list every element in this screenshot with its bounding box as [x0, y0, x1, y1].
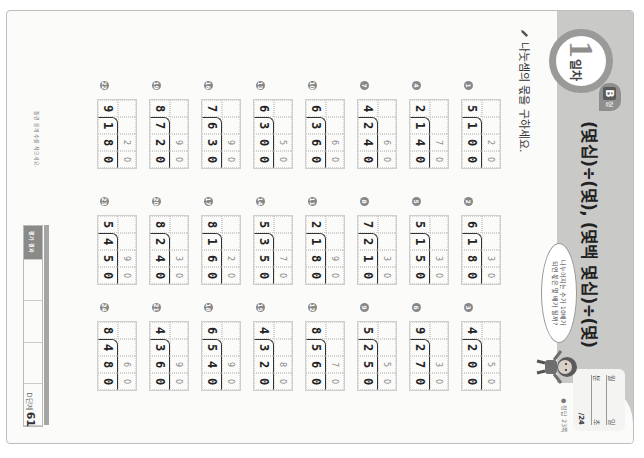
quotient-cell[interactable]: 5: [378, 356, 396, 373]
evaluation-cell[interactable]: [24, 343, 42, 385]
quotient-cell[interactable]: 6: [118, 356, 136, 373]
quotient-cell[interactable]: 6: [378, 134, 396, 151]
quotient-cell[interactable]: [482, 339, 500, 356]
quotient-cell[interactable]: 2: [222, 250, 240, 267]
quotient-cell[interactable]: 0: [274, 373, 292, 390]
quotient-cell[interactable]: 6: [326, 134, 344, 151]
quotient-cell[interactable]: 9: [118, 250, 136, 267]
quotient-cell[interactable]: [118, 322, 136, 339]
quotient-cell[interactable]: [222, 322, 240, 339]
quotient-cell[interactable]: [430, 117, 448, 134]
quotient-cell[interactable]: [482, 233, 500, 250]
quotient-cell[interactable]: [170, 117, 188, 134]
quotient-cell[interactable]: [430, 322, 448, 339]
quotient-cell[interactable]: [222, 216, 240, 233]
quotient-cell[interactable]: [170, 339, 188, 356]
quotient-cell[interactable]: [222, 233, 240, 250]
quotient-cell[interactable]: [274, 100, 292, 117]
quotient-cell[interactable]: [430, 100, 448, 117]
quotient-cell[interactable]: [274, 216, 292, 233]
quotient-cell[interactable]: 3: [430, 356, 448, 373]
quotient-cell[interactable]: [118, 100, 136, 117]
quotient-cell[interactable]: [274, 322, 292, 339]
quotient-cell[interactable]: 0: [118, 267, 136, 284]
quotient-cell[interactable]: 9: [222, 134, 240, 151]
quotient-cell[interactable]: 0: [274, 267, 292, 284]
quotient-cell[interactable]: 0: [378, 373, 396, 390]
quotient-cell[interactable]: [274, 339, 292, 356]
quotient-cell[interactable]: 0: [170, 373, 188, 390]
quotient-cell[interactable]: [170, 216, 188, 233]
quotient-cell[interactable]: [326, 322, 344, 339]
time-row[interactable]: 분 초: [591, 375, 606, 425]
quotient-cell[interactable]: [378, 100, 396, 117]
quotient-cell[interactable]: 3: [430, 250, 448, 267]
quotient-cell[interactable]: [274, 117, 292, 134]
quotient-cell[interactable]: 0: [326, 151, 344, 168]
quotient-cell[interactable]: 2: [118, 134, 136, 151]
quotient-cell[interactable]: [170, 322, 188, 339]
quotient-cell[interactable]: [378, 117, 396, 134]
quotient-cell[interactable]: [378, 216, 396, 233]
quotient-cell[interactable]: 0: [326, 373, 344, 390]
quotient-cell[interactable]: 7: [326, 356, 344, 373]
quotient-cell[interactable]: [482, 117, 500, 134]
quotient-cell[interactable]: [326, 100, 344, 117]
quotient-cell[interactable]: [430, 339, 448, 356]
quotient-cell[interactable]: 0: [378, 151, 396, 168]
quotient-cell[interactable]: [326, 216, 344, 233]
quotient-cell[interactable]: 9: [326, 250, 344, 267]
quotient-cell[interactable]: 9: [170, 134, 188, 151]
quotient-cell[interactable]: 7: [274, 250, 292, 267]
quotient-cell[interactable]: [118, 117, 136, 134]
quotient-cell[interactable]: [118, 339, 136, 356]
quotient-cell[interactable]: 0: [482, 267, 500, 284]
quotient-cell[interactable]: [274, 233, 292, 250]
quotient-cell[interactable]: [222, 339, 240, 356]
quotient-cell[interactable]: [378, 322, 396, 339]
quotient-cell[interactable]: 0: [430, 373, 448, 390]
quotient-cell[interactable]: 0: [170, 267, 188, 284]
quotient-cell[interactable]: [378, 233, 396, 250]
quotient-cell[interactable]: 7: [430, 134, 448, 151]
quotient-cell[interactable]: [482, 216, 500, 233]
quotient-cell[interactable]: 5: [482, 356, 500, 373]
quotient-cell[interactable]: 3: [378, 250, 396, 267]
quotient-cell[interactable]: 0: [118, 151, 136, 168]
quotient-cell[interactable]: [482, 322, 500, 339]
quotient-cell[interactable]: 0: [274, 151, 292, 168]
quotient-cell[interactable]: [118, 233, 136, 250]
quotient-cell[interactable]: 0: [118, 373, 136, 390]
quotient-cell[interactable]: [326, 339, 344, 356]
quotient-cell[interactable]: 0: [222, 267, 240, 284]
quotient-cell[interactable]: 3: [482, 250, 500, 267]
quotient-cell[interactable]: [430, 233, 448, 250]
quotient-cell[interactable]: [378, 339, 396, 356]
quotient-cell[interactable]: 8: [274, 356, 292, 373]
quotient-cell[interactable]: 0: [222, 151, 240, 168]
quotient-cell[interactable]: [222, 117, 240, 134]
quotient-cell[interactable]: 0: [430, 151, 448, 168]
quotient-cell[interactable]: 0: [482, 373, 500, 390]
quotient-cell[interactable]: [170, 100, 188, 117]
evaluation-cell[interactable]: [24, 260, 42, 302]
quotient-cell[interactable]: [326, 233, 344, 250]
quotient-cell[interactable]: 0: [326, 267, 344, 284]
quotient-cell[interactable]: 5: [274, 134, 292, 151]
quotient-cell[interactable]: [430, 216, 448, 233]
quotient-cell[interactable]: 3: [170, 250, 188, 267]
quotient-cell[interactable]: 9: [170, 356, 188, 373]
quotient-cell[interactable]: [118, 216, 136, 233]
evaluation-cell[interactable]: [24, 301, 42, 343]
quotient-cell[interactable]: [482, 100, 500, 117]
quotient-cell[interactable]: 9: [222, 356, 240, 373]
quotient-cell[interactable]: 2: [482, 134, 500, 151]
quotient-cell[interactable]: 0: [378, 267, 396, 284]
quotient-cell[interactable]: [222, 100, 240, 117]
quotient-cell[interactable]: [170, 233, 188, 250]
quotient-cell[interactable]: 0: [222, 373, 240, 390]
quotient-cell[interactable]: 0: [482, 151, 500, 168]
date-row[interactable]: 월 일: [606, 375, 621, 425]
quotient-cell[interactable]: 0: [170, 151, 188, 168]
quotient-cell[interactable]: [326, 117, 344, 134]
